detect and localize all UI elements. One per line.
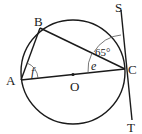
segment-bc bbox=[40, 28, 125, 69]
label-a: A bbox=[6, 73, 16, 88]
center-point-o bbox=[71, 73, 74, 76]
angle-label-f: f bbox=[31, 65, 36, 79]
label-c: C bbox=[128, 62, 137, 77]
label-o: O bbox=[70, 79, 79, 94]
label-s: S bbox=[115, 0, 122, 15]
label-t: T bbox=[127, 120, 135, 134]
angle-label-65: 65° bbox=[95, 46, 110, 58]
label-b: B bbox=[34, 14, 43, 29]
angle-label-e: e bbox=[91, 59, 97, 73]
circle-tangent-diagram: S T B A C O 65° e f bbox=[0, 0, 142, 134]
